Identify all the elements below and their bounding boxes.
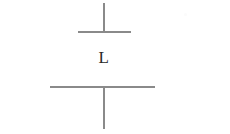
background-speck-artifact — [184, 13, 187, 16]
top-lead-line-icon — [103, 3, 105, 32]
upper-plate-line-icon — [78, 31, 131, 33]
component-label: L — [0, 48, 208, 68]
circuit-symbol-canvas: L — [0, 0, 230, 134]
bottom-lead-line-icon — [103, 87, 105, 129]
